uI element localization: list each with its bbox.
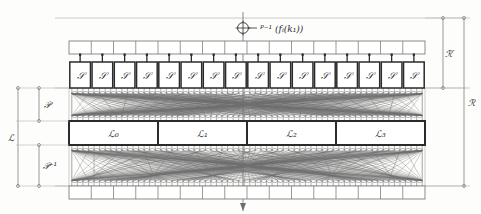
sbox-input-node <box>190 54 192 56</box>
bracket-P-inverse-label: 𝒫⁻¹ <box>43 161 57 171</box>
network-arc-band-bottom <box>72 116 422 118</box>
sbox-input-node <box>235 54 237 56</box>
sbox-input-node <box>101 54 103 56</box>
sbox-input-node <box>302 54 304 56</box>
l-block-label: ℒ₃ <box>375 128 386 139</box>
sbox-input-node <box>79 54 81 56</box>
l-block-label: ℒ₂ <box>286 128 297 139</box>
upper-permutation-network <box>72 88 422 121</box>
sbox-input-node <box>346 54 348 56</box>
sbox-input-node <box>368 54 370 56</box>
sbox-input-node <box>413 54 415 56</box>
network-arc-band-bottom <box>72 181 422 183</box>
sbox-input-node <box>324 54 326 56</box>
bracket-P-label: 𝒫 <box>44 100 53 110</box>
top-marker-label: ᴾ⁻¹ (fᵢ(k₁)) <box>259 24 304 34</box>
sbox-input-node <box>168 54 170 56</box>
lower-permutation-network <box>72 145 422 186</box>
axis-arrow-icon <box>240 203 246 211</box>
permutation-network-diagram: 𝒮𝒮𝒮𝒮𝒮𝒮𝒮𝒮𝒮𝒮𝒮𝒮𝒮𝒮𝒮𝒮ℒ₀ℒ₁ℒ₂ℒ₃ℛ′ℛℒ𝒫𝒫⁻¹ᴾ⁻¹ (fᵢ(… <box>0 0 481 214</box>
sbox-input-node <box>146 54 148 56</box>
sbox-input-node <box>257 54 259 56</box>
l-block-label: ℒ₁ <box>197 128 208 139</box>
bracket-R-label: ℛ <box>468 98 476 108</box>
network-arc-band-top <box>72 148 422 150</box>
sbox-input-node <box>124 54 126 56</box>
bracket-L-label: ℒ <box>8 133 15 143</box>
figure-canvas: 𝒮𝒮𝒮𝒮𝒮𝒮𝒮𝒮𝒮𝒮𝒮𝒮𝒮𝒮𝒮𝒮ℒ₀ℒ₁ℒ₂ℒ₃ℛ′ℛℒ𝒫𝒫⁻¹ᴾ⁻¹ (fᵢ(… <box>0 0 481 214</box>
l-block-label: ℒ₀ <box>108 128 119 139</box>
network-arc-band-top <box>72 91 422 93</box>
sbox-input-node <box>391 54 393 56</box>
bracket-R-prime-label: ℛ′ <box>445 49 454 59</box>
sbox-input-node <box>279 54 281 56</box>
sbox-input-node <box>213 54 215 56</box>
